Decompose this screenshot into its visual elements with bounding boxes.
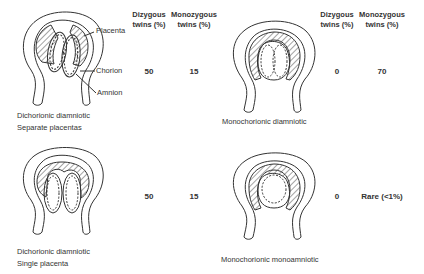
twin-placentation-diagram: [0, 0, 424, 274]
caption-line1: Dichorionic diamniotic: [17, 110, 90, 122]
caption-line2: Single placenta: [17, 258, 68, 270]
uterus-diagram-monochorionic-diamniotic: [233, 21, 315, 112]
caption-line2: Separate placentas: [17, 122, 82, 134]
caption-line1: Monochorionic monoamniotic: [221, 254, 319, 266]
value-monozygous: 15: [168, 67, 220, 76]
amnion-mono-1: [261, 45, 275, 77]
uterus-diagram-monochorionic-monoamniotic: [233, 153, 315, 239]
placenta-mono: [249, 32, 300, 80]
value-dizygous: 0: [315, 192, 359, 201]
value-dizygous: 50: [127, 67, 171, 76]
value-monozygous: 15: [168, 192, 220, 201]
caption-line1: Dichorionic diamniotic: [17, 246, 90, 258]
header-dizygous-right: Dizygous twins (%): [315, 10, 359, 30]
placenta-right: [70, 25, 88, 66]
amnion-3a: [47, 176, 59, 210]
amnion-3b: [66, 176, 78, 210]
value-monozygous: 70: [356, 67, 408, 76]
label-chorion: Chorion: [96, 66, 122, 75]
value-monozygous: Rare (<1%): [356, 192, 408, 201]
header-monozygous-right: Monozygous twins (%): [356, 10, 408, 30]
caption-line1: Monochorionic diamniotic: [222, 116, 307, 128]
label-amnion: Amnion: [97, 88, 122, 97]
amnion-mono-single: [262, 175, 286, 203]
header-monozygous-left: Monozygous twins (%): [168, 10, 220, 30]
header-dizygous-left: Dizygous twins (%): [127, 10, 171, 30]
value-dizygous: 0: [315, 67, 359, 76]
value-dizygous: 50: [127, 192, 171, 201]
label-placenta: Placenta: [96, 26, 125, 35]
uterus-diagram-dichorionic-separate: [23, 12, 103, 105]
uterus-diagram-dichorionic-single: [23, 147, 103, 234]
placenta-mono-2: [249, 164, 300, 210]
